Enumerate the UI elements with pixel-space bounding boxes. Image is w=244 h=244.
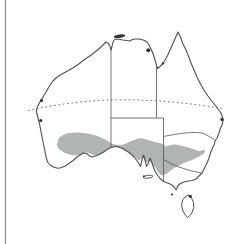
melville-island-mark xyxy=(114,34,126,39)
kangaroo-island-west-dot xyxy=(143,175,145,177)
mornington-island-mark xyxy=(162,62,164,64)
tasmania-northeast-mark xyxy=(189,195,192,198)
map-canvas xyxy=(0,0,244,244)
east-coast-island-mark xyxy=(220,118,223,121)
map-page xyxy=(0,0,244,244)
australia-coastline xyxy=(36,32,223,190)
west-coast-mark xyxy=(39,119,42,122)
shark-bay-mark xyxy=(40,99,43,102)
tropic-of-capricorn-dotted-line xyxy=(28,100,222,111)
groote-eylandt-mark xyxy=(146,48,150,52)
island-marks xyxy=(39,34,224,198)
tasmania-outline xyxy=(182,195,194,218)
state-border-qld-nsw xyxy=(164,132,215,139)
bass-strait-islet-mark xyxy=(171,193,173,195)
